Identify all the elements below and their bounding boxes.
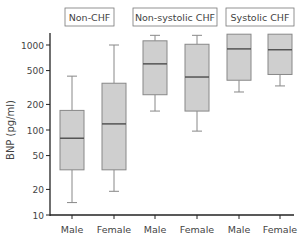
y-tick-label: 50 xyxy=(33,151,45,161)
box-non-chf-female xyxy=(102,45,126,191)
x-tick-label: Male xyxy=(144,224,167,235)
y-tick-label: 200 xyxy=(27,100,44,110)
group-label: Non-systolic CHF xyxy=(135,12,215,23)
group-labels: Non-CHFNon-systolic CHFSystolic CHF xyxy=(65,8,294,26)
iqr-box xyxy=(102,83,126,170)
group-label: Non-CHF xyxy=(69,12,111,23)
x-tick-label: Male xyxy=(228,224,251,235)
x-tick-label: Male xyxy=(61,224,84,235)
x-tick-label: Female xyxy=(180,224,215,235)
group-label: Systolic CHF xyxy=(231,12,290,23)
boxplot-chart: Non-CHFNon-systolic CHFSystolic CHF 1020… xyxy=(0,0,298,237)
y-tick-label: 500 xyxy=(27,66,44,76)
x-tick-label: Female xyxy=(263,224,298,235)
y-axis: 1020501002005001000 xyxy=(21,33,50,221)
iqr-box xyxy=(268,34,292,74)
box-non-systolic-chf-female xyxy=(185,35,209,131)
iqr-box xyxy=(60,110,84,169)
box-non-systolic-chf-male xyxy=(143,35,167,111)
box-non-chf-male xyxy=(60,76,84,202)
x-axis: MaleFemaleMaleFemaleMaleFemale xyxy=(50,215,297,235)
box-systolic-chf-female xyxy=(268,34,292,86)
y-tick-label: 100 xyxy=(27,126,44,136)
iqr-box xyxy=(143,41,167,95)
y-tick-label: 20 xyxy=(33,185,45,195)
box-series xyxy=(60,34,292,202)
iqr-box xyxy=(227,34,251,80)
y-tick-label: 1000 xyxy=(21,41,44,51)
x-tick-label: Female xyxy=(97,224,132,235)
y-axis-label: BNP (pg/ml) xyxy=(5,100,16,160)
y-tick-label: 10 xyxy=(33,211,45,221)
box-systolic-chf-male xyxy=(227,34,251,92)
